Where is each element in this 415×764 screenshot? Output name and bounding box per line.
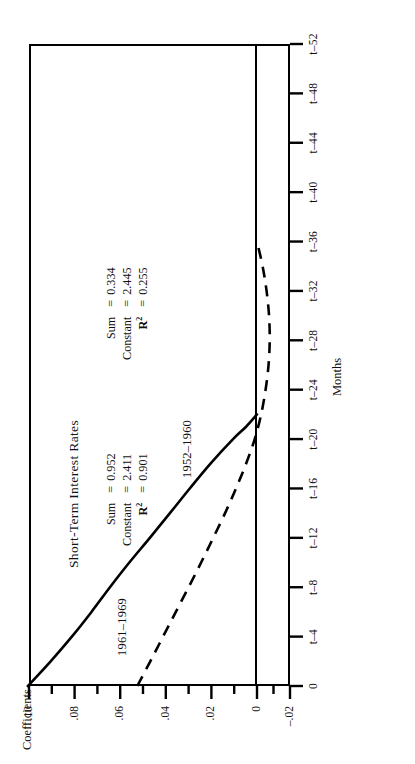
- y-axis-tick-label: 0: [250, 706, 262, 742]
- stats-value-sum: 0.334: [104, 267, 120, 294]
- x-axis-tick-label: t–12: [307, 518, 319, 558]
- stats-value-constant: 2.445: [120, 267, 136, 294]
- axis-tick-marks: [29, 44, 303, 699]
- stats-row-rsquared: R2 = 0.901: [135, 453, 152, 546]
- stats-key-rsquared-letter: R: [136, 507, 150, 516]
- stats-value-constant: 2.411: [120, 453, 136, 480]
- y-axis-tick-label: .06: [113, 706, 125, 742]
- chart-canvas: [0, 0, 415, 764]
- stats-annotation-1961-1969: Sum = 0.952 Constant = 2.411 R2 = 0.901: [104, 453, 152, 546]
- y-axis-tick-label: .02: [204, 706, 216, 742]
- chart-title: Short-Term Interest Rates: [66, 420, 82, 568]
- stats-row-sum: Sum = 0.952: [104, 453, 120, 546]
- stats-equals-sum: =: [104, 295, 120, 312]
- x-axis-tick-label: t–36: [307, 222, 319, 262]
- stats-key-rsquared: R2: [135, 498, 152, 546]
- chart-figure: 0t–4t–8t–12t–16t–20t–24t–28t–32t–36t–40t…: [0, 0, 415, 764]
- y-axis-tick-label: .04: [159, 706, 171, 742]
- stats-key-constant: Constant: [120, 312, 136, 360]
- stats-value-rsquared: 0.255: [135, 267, 152, 294]
- x-axis-tick-label: t–32: [307, 271, 319, 311]
- stats-row-sum: Sum = 0.334: [104, 267, 120, 360]
- x-axis-tick-label: t–8: [307, 567, 319, 607]
- stats-equals-rsquared: =: [135, 295, 152, 312]
- stats-annotation-1952-1960: Sum = 0.334 Constant = 2.445 R2 = 0.255: [104, 267, 152, 360]
- x-axis-tick-label: t–28: [307, 320, 319, 360]
- x-axis-tick-label: t–52: [307, 24, 319, 64]
- series-line-1952-1960: [137, 242, 269, 686]
- stats-row-rsquared: R2 = 0.255: [135, 267, 152, 360]
- stats-row-constant: Constant = 2.411: [120, 453, 136, 546]
- x-axis-tick-label: t–40: [307, 172, 319, 212]
- series-label-1952-1960: 1952–1960: [180, 420, 195, 478]
- stats-key-sum: Sum: [104, 312, 120, 360]
- series-label-1961-1969: 1961–1969: [115, 598, 130, 656]
- y-axis-tick-label: –.02: [283, 706, 295, 742]
- y-axis-tick-label: .08: [68, 706, 80, 742]
- stats-value-sum: 0.952: [104, 453, 120, 480]
- stats-row-constant: Constant = 2.445: [120, 267, 136, 360]
- x-axis-tick-label: 0: [307, 666, 319, 706]
- stats-value-rsquared: 0.901: [135, 453, 152, 480]
- stats-equals-constant: =: [120, 481, 136, 498]
- stats-key-rsquared-letter: R: [136, 321, 150, 330]
- x-axis-tick-label: t–48: [307, 73, 319, 113]
- y-axis-title: Coefficients: [20, 689, 35, 750]
- stats-key-rsquared-exponent: 2: [135, 317, 144, 321]
- stats-equals-rsquared: =: [135, 481, 152, 498]
- x-axis-tick-label: t–16: [307, 468, 319, 508]
- stats-equals-sum: =: [104, 481, 120, 498]
- rotated-figure-wrapper: 0t–4t–8t–12t–16t–20t–24t–28t–32t–36t–40t…: [0, 0, 415, 764]
- x-axis-tick-label: t–4: [307, 617, 319, 657]
- x-axis-tick-label: t–24: [307, 370, 319, 410]
- stats-equals-constant: =: [120, 295, 136, 312]
- x-axis-tick-label: t–20: [307, 419, 319, 459]
- x-axis-tick-label: t–44: [307, 123, 319, 163]
- stats-key-sum: Sum: [104, 498, 120, 546]
- stats-key-rsquared-exponent: 2: [135, 503, 144, 507]
- stats-key-rsquared: R2: [135, 312, 152, 360]
- x-axis-title: Months: [330, 358, 345, 396]
- stats-key-constant: Constant: [120, 498, 136, 546]
